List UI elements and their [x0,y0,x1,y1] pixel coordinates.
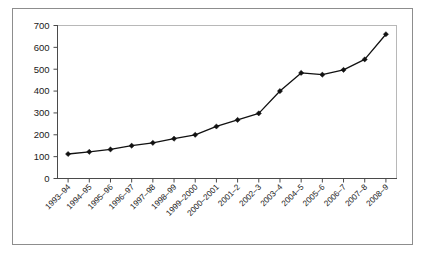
y-tick-label: 300 [34,107,50,118]
data-point-marker [235,117,240,122]
plot-frame [57,26,397,179]
data-point-marker [341,67,346,72]
y-tick-label: 400 [34,85,50,96]
x-tick-group [68,179,386,183]
y-tick-label-group: 0100200300400500600700 [34,20,50,184]
series-marker-group [65,32,388,157]
y-tick-label: 100 [34,151,50,162]
x-tick-label: 2005–6 [301,182,327,208]
series-line-path [68,34,386,154]
y-tick-label: 0 [44,173,49,184]
data-point-marker [108,147,113,152]
y-tick-label: 200 [34,129,50,140]
x-tick-label: 2007–8 [343,182,369,208]
y-tick-group [54,26,58,179]
x-tick-label: 2004–5 [280,182,306,208]
x-tick-label: 2003–4 [259,182,285,208]
data-point-marker [320,72,325,77]
data-point-marker [214,124,219,129]
data-point-marker [65,151,70,156]
data-point-marker [87,149,92,154]
y-tick-label: 600 [34,42,50,53]
line-chart: 0100200300400500600700 1993–941994–95199… [0,0,433,260]
x-tick-label-group: 1993–941994–951995–961996–971997–981998–… [44,182,391,218]
x-tick-label: 2006–7 [322,182,348,208]
chart-figure: 0100200300400500600700 1993–941994–95199… [0,0,433,260]
x-tick-label: 2002–3 [238,182,264,208]
data-point-marker [150,140,155,145]
x-tick-label: 2008–9 [365,182,391,208]
y-tick-label: 700 [34,20,50,31]
x-tick-label: 2001–2 [216,182,242,208]
data-point-marker [193,132,198,137]
data-point-marker [171,136,176,141]
y-tick-label: 500 [34,64,50,75]
data-point-marker [129,143,134,148]
